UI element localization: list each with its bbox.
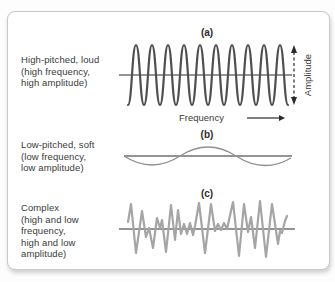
frequency-arrow	[247, 115, 285, 121]
caption-a: (a)	[187, 27, 227, 38]
amplitude-arrow-down-icon	[291, 97, 297, 105]
caption-b: (b)	[187, 129, 227, 140]
frequency-arrow-right-icon	[279, 115, 285, 121]
label-line: Low-pitched, soft	[21, 139, 95, 151]
label-line: frequency,	[21, 225, 79, 237]
label-line: high and low	[21, 237, 79, 249]
amplitude-arrow-up-icon	[291, 45, 297, 53]
amplitude-axis-label: Amplitude	[302, 45, 316, 105]
label-line: Complex	[21, 202, 79, 214]
label-line: high amplitude)	[21, 77, 99, 89]
label-line: (low frequency,	[21, 151, 95, 163]
label-line: High-pitched, loud	[21, 54, 99, 66]
label-high-pitched: High-pitched, loud (high frequency, high…	[21, 54, 99, 89]
label-line: low amplitude)	[21, 162, 95, 174]
figure: High-pitched, loud (high frequency, high…	[0, 0, 335, 282]
label-low-pitched: Low-pitched, soft (low frequency, low am…	[21, 139, 95, 174]
label-line: amplitude)	[21, 248, 79, 260]
diagram-panel: High-pitched, loud (high frequency, high…	[7, 11, 330, 270]
label-line: (high frequency,	[21, 66, 99, 78]
frequency-axis-label: Frequency	[179, 112, 224, 123]
label-line: (high and low	[21, 214, 79, 226]
label-complex: Complex (high and low frequency, high an…	[21, 202, 79, 260]
caption-c: (c)	[187, 188, 227, 199]
